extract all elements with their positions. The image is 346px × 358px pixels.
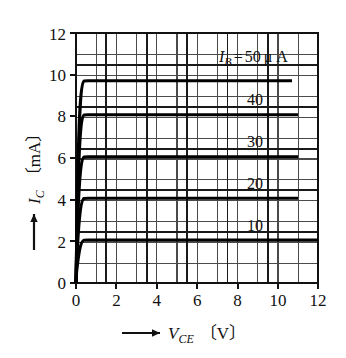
y-tick-label-10: 10 (49, 66, 66, 85)
annotation-ib-10ua: 10 (247, 217, 263, 234)
annotation-unit-microamp: μ A (264, 48, 289, 66)
chart-background (0, 0, 346, 358)
y-tick-label-12: 12 (49, 25, 66, 44)
x-axis-unit: 〔V〕 (200, 324, 246, 343)
x-tick-label-2: 2 (112, 291, 121, 310)
annotation-ib-40ua: 40 (247, 91, 263, 108)
annotation-subscript-B: B (224, 55, 232, 69)
y-tick-label-0: 0 (58, 274, 67, 293)
transistor-output-characteristics-chart: 0 2 4 6 8 10 12 0 2 4 6 8 10 12 (0, 0, 346, 358)
annotation-value-50: 50 (245, 48, 261, 65)
x-tick-label-0: 0 (72, 291, 81, 310)
x-tick-label-6: 6 (193, 291, 202, 310)
y-axis-unit: 〔mA〕 (25, 125, 44, 185)
x-tick-label-10: 10 (270, 291, 287, 310)
x-tick-label-12: 12 (310, 291, 327, 310)
annotation-equals: = (234, 48, 243, 65)
y-tick-label-8: 8 (58, 107, 67, 126)
chart-figure: 0 2 4 6 8 10 12 0 2 4 6 8 10 12 (0, 0, 346, 358)
x-tick-label-4: 4 (153, 291, 162, 310)
y-tick-label-2: 2 (58, 233, 67, 252)
y-tick-label-4: 4 (58, 191, 67, 210)
y-axis-subscript: C (33, 189, 47, 198)
x-tick-label-8: 8 (233, 291, 242, 310)
annotation-ib-30ua: 30 (247, 133, 263, 150)
y-tick-label-6: 6 (58, 149, 67, 168)
annotation-ib-20ua: 20 (247, 175, 263, 192)
x-axis-subscript: CE (178, 332, 194, 346)
